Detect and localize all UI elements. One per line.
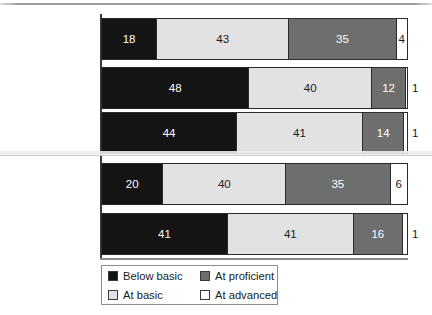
segment-at-basic[interactable]: 41 <box>236 112 362 154</box>
legend-item-at-proficient[interactable]: At proficient <box>200 266 285 285</box>
segment-below-basic[interactable]: 18 <box>101 18 156 60</box>
segment-value: 40 <box>218 178 231 190</box>
legend-item-at-advanced[interactable]: At advanced <box>200 285 285 304</box>
segment-value: 20 <box>126 178 139 190</box>
segment-at-basic[interactable]: 41 <box>227 213 353 255</box>
segment-value: 4 <box>399 33 405 45</box>
segment-value: 35 <box>331 178 344 190</box>
segment-at-proficient[interactable]: 14 <box>362 112 403 154</box>
segment-value: 43 <box>216 33 229 45</box>
segment-value-outside: 1 <box>412 213 418 255</box>
segment-below-basic[interactable]: 44 <box>101 112 236 154</box>
segment-below-basic[interactable]: 20 <box>101 163 162 205</box>
segment-at-advanced[interactable]: 1 <box>402 213 408 255</box>
legend-swatch-icon <box>108 271 118 281</box>
bar-track: 44 41 14 1 <box>101 112 408 154</box>
segment-value: 41 <box>158 228 171 240</box>
segment-value: 12 <box>382 82 395 94</box>
segment-value-outside: 1 <box>412 67 418 109</box>
segment-at-advanced[interactable]: 1 <box>405 67 408 109</box>
legend-swatch-icon <box>200 271 210 281</box>
segment-at-advanced[interactable]: 1 <box>403 112 408 154</box>
legend-swatch-icon <box>108 290 118 300</box>
legend-item-below-basic[interactable]: Below basic <box>108 266 200 285</box>
segment-value-outside: 1 <box>412 112 418 154</box>
segment-value: 6 <box>396 178 402 190</box>
legend-label: At advanced <box>215 289 277 301</box>
segment-at-proficient[interactable]: 35 <box>285 163 389 205</box>
segment-at-basic[interactable]: 40 <box>248 67 371 109</box>
segment-at-basic[interactable]: 43 <box>156 18 288 60</box>
bar-track: 48 40 12 1 <box>101 67 408 109</box>
bar-track: 20 40 35 6 <box>101 163 408 205</box>
bar-track: 41 41 16 1 <box>101 213 408 255</box>
segment-at-proficient[interactable]: 35 <box>288 18 395 60</box>
segment-value: 41 <box>284 228 297 240</box>
segment-value: 41 <box>293 127 306 139</box>
legend-label: At proficient <box>215 270 274 282</box>
legend-label: At basic <box>123 289 163 301</box>
segment-at-basic[interactable]: 40 <box>162 163 285 205</box>
chart-legend: Below basic At proficient At basic At ad… <box>101 265 278 305</box>
segment-at-advanced[interactable]: 4 <box>396 18 408 60</box>
segment-at-proficient[interactable]: 12 <box>371 67 405 109</box>
segment-value: 16 <box>371 228 384 240</box>
segment-value: 40 <box>304 82 317 94</box>
segment-value: 14 <box>377 127 390 139</box>
legend-item-at-basic[interactable]: At basic <box>108 285 200 304</box>
legend-swatch-icon <box>200 290 210 300</box>
segment-value: 35 <box>336 33 349 45</box>
bar-track: 18 43 35 4 <box>101 18 408 60</box>
legend-label: Below basic <box>123 270 183 282</box>
segment-below-basic[interactable]: 41 <box>101 213 227 255</box>
x-axis-line <box>100 258 408 260</box>
segment-at-proficient[interactable]: 16 <box>353 213 402 255</box>
segment-below-basic[interactable]: 48 <box>101 67 248 109</box>
segment-value: 18 <box>123 33 136 45</box>
segment-at-advanced[interactable]: 6 <box>390 163 408 205</box>
segment-value: 48 <box>169 82 182 94</box>
segment-value: 44 <box>163 127 176 139</box>
